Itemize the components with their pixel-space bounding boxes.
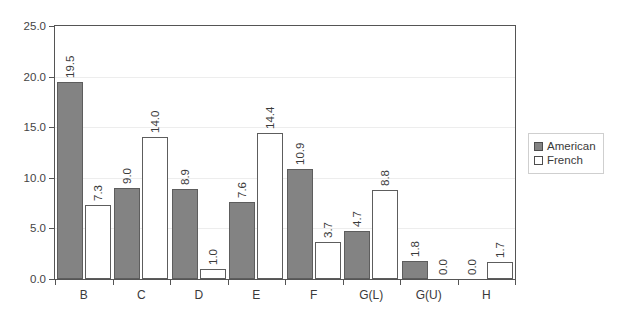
legend-item-label: American: [547, 140, 596, 153]
bar-group: 8.91.0: [170, 26, 228, 279]
bar-value-label: 8.8: [379, 170, 391, 186]
bar-value-label: 14.0: [149, 111, 161, 133]
y-axis-tick-label: 20.0: [0, 71, 46, 83]
y-axis-tick-label: 10.0: [0, 172, 46, 184]
bar-american-F[interactable]: [287, 169, 313, 279]
x-axis-category-label: F: [310, 288, 317, 302]
filled-gray-swatch: [534, 142, 543, 151]
x-axis-tick-mark: [170, 280, 171, 285]
y-axis-tick-label: 25.0: [0, 20, 46, 32]
bar-group: 9.014.0: [113, 26, 171, 279]
x-axis-tick-mark: [55, 280, 56, 285]
bar-group: 4.78.8: [343, 26, 401, 279]
bar-value-label: 0.0: [437, 259, 449, 275]
x-axis-tick-mark: [228, 280, 229, 285]
x-axis-category-label: G(U): [416, 288, 442, 302]
x-axis-tick-mark: [285, 280, 286, 285]
x-axis-tick-mark: [458, 280, 459, 285]
bar-value-label: 3.7: [322, 222, 334, 238]
x-axis-category-label: D: [194, 288, 203, 302]
bar-french-D[interactable]: [200, 269, 226, 279]
bar-american-C[interactable]: [114, 188, 140, 279]
y-axis-tick-mark: [49, 228, 54, 229]
x-axis-tick-mark: [515, 280, 516, 285]
bar-value-label: 1.7: [494, 242, 506, 258]
bar-american-G(L)[interactable]: [344, 231, 370, 279]
x-axis-category-label: E: [252, 288, 260, 302]
outlined-white-swatch: [534, 156, 543, 165]
x-axis-category-label: C: [137, 288, 146, 302]
bar-value-label: 1.0: [207, 249, 219, 265]
bar-american-D[interactable]: [172, 189, 198, 279]
y-axis-tick-mark: [49, 26, 54, 27]
x-axis-tick-mark: [400, 280, 401, 285]
bar-chart: 0.05.010.015.020.025.0 19.57.39.014.08.9…: [0, 0, 618, 318]
bar-group: 0.01.7: [458, 26, 516, 279]
bar-french-B[interactable]: [85, 205, 111, 279]
bar-value-label: 8.9: [179, 169, 191, 185]
legend-item-label: French: [547, 154, 583, 167]
legend-item-american[interactable]: American: [534, 140, 596, 153]
chart-legend: AmericanFrench: [528, 133, 604, 174]
bar-value-label: 9.0: [121, 168, 133, 184]
x-axis-category-label: H: [482, 288, 491, 302]
bar-american-B[interactable]: [57, 82, 83, 279]
bar-american-G(U)[interactable]: [402, 261, 428, 279]
bar-value-label: 7.6: [236, 182, 248, 198]
bar-french-F[interactable]: [315, 242, 341, 279]
bar-french-C[interactable]: [142, 137, 168, 279]
x-axis-category-label: G(L): [359, 288, 383, 302]
x-axis-category-label: B: [80, 288, 88, 302]
bar-value-label: 1.8: [409, 241, 421, 257]
bar-group: 7.614.4: [228, 26, 286, 279]
bar-value-label: 7.3: [92, 185, 104, 201]
y-axis-tick-mark: [49, 127, 54, 128]
y-axis-tick-label: 0.0: [0, 273, 46, 285]
y-axis-tick-mark: [49, 178, 54, 179]
legend-item-french[interactable]: French: [534, 154, 596, 167]
y-axis-tick-label: 5.0: [0, 222, 46, 234]
bar-group: 10.93.7: [285, 26, 343, 279]
bar-group: 19.57.3: [55, 26, 113, 279]
bars-layer: 19.57.39.014.08.91.07.614.410.93.74.78.8…: [55, 26, 515, 279]
bar-value-label: 19.5: [64, 55, 76, 77]
bar-group: 1.80.0: [400, 26, 458, 279]
x-axis-tick-mark: [343, 280, 344, 285]
x-axis-tick-mark: [113, 280, 114, 285]
y-axis-tick-mark: [49, 77, 54, 78]
bar-french-G(L)[interactable]: [372, 190, 398, 279]
bar-french-H[interactable]: [487, 262, 513, 279]
bar-value-label: 0.0: [466, 259, 478, 275]
y-axis-tick-label: 15.0: [0, 121, 46, 133]
bar-american-E[interactable]: [229, 202, 255, 279]
bar-french-E[interactable]: [257, 133, 283, 279]
bar-value-label: 10.9: [294, 142, 306, 164]
bar-value-label: 14.4: [264, 107, 276, 129]
bar-value-label: 4.7: [351, 211, 363, 227]
y-axis-tick-mark: [49, 279, 54, 280]
